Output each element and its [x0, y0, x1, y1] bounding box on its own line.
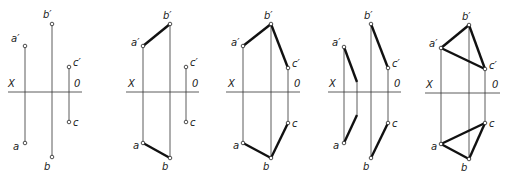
label-b-top: b [162, 161, 168, 172]
axis-label-x: X [127, 78, 136, 89]
panel-4: X 0 a′ b′ c′ a b c [328, 10, 401, 172]
point-c-top [386, 121, 390, 125]
edge-ab-front [441, 25, 469, 48]
edge-ab-front [243, 24, 271, 46]
label-c-front: c′ [489, 60, 497, 71]
point-a-front [23, 44, 27, 48]
point-b-front [168, 22, 172, 26]
label-c-front: c′ [190, 57, 198, 68]
label-c-front: c′ [392, 58, 400, 69]
label-c-top: c [292, 118, 298, 129]
point-b-top [50, 155, 54, 159]
label-c-front: c′ [73, 57, 81, 68]
point-c-front [386, 66, 390, 70]
point-b-top [467, 157, 471, 161]
label-b-top: b [461, 162, 467, 173]
label-c-top: c [190, 117, 196, 128]
point-a-top [439, 142, 443, 146]
label-c-top: c [489, 118, 495, 129]
edge-ab-top [243, 143, 271, 158]
axis-label-0: 0 [192, 78, 198, 89]
point-c-top [286, 121, 290, 125]
point-a-top [241, 141, 245, 145]
label-a-top: a [133, 140, 139, 151]
point-b-top [168, 156, 172, 160]
point-b-front [50, 22, 54, 26]
label-b-front: b′ [163, 10, 172, 21]
point-b-top [369, 156, 373, 160]
label-b-front: b′ [264, 10, 273, 21]
edge-ab-front [143, 24, 170, 46]
edge-bc-top [371, 123, 388, 158]
axis-label-x: X [328, 78, 337, 89]
point-c-top [67, 120, 71, 124]
label-a-front: a′ [429, 38, 438, 49]
label-b-front: b′ [43, 9, 52, 20]
point-a-top [342, 141, 346, 145]
point-b-top [269, 156, 273, 160]
label-a-front: a′ [332, 37, 341, 48]
axis-label-x: X [227, 78, 236, 89]
point-a-top [141, 141, 145, 145]
edge-bc-front [371, 24, 388, 68]
point-a-front [439, 46, 443, 50]
point-b-front [369, 22, 373, 26]
point-c-front [483, 67, 487, 71]
point-a-front [342, 45, 346, 49]
label-a-front: a′ [131, 37, 140, 48]
label-b-top: b [263, 161, 269, 172]
point-b-front [467, 23, 471, 27]
label-a-top: a [431, 141, 437, 152]
label-b-top: b [44, 161, 50, 172]
panel-5: X 0 a′ b′ c′ a b c [425, 11, 500, 173]
edge-ab-top [143, 143, 170, 158]
label-b-front: b′ [364, 10, 373, 21]
edge-ab-top [441, 144, 469, 159]
label-a-front: a′ [231, 37, 240, 48]
axis-label-0: 0 [74, 78, 80, 89]
edge-bc-top [271, 123, 288, 158]
axis-label-x: X [425, 79, 434, 90]
point-a-top [23, 141, 27, 145]
label-c-front: c′ [292, 58, 300, 69]
panel-3: X 0 a′ b′ c′ a b c [226, 10, 300, 172]
edge-bc-front [271, 24, 288, 68]
point-c-top [184, 120, 188, 124]
point-c-front [184, 65, 188, 69]
point-c-front [286, 66, 290, 70]
label-a-front: a′ [11, 33, 20, 44]
label-b-top: b [363, 161, 369, 172]
point-a-front [241, 44, 245, 48]
label-c-top: c [392, 118, 398, 129]
panel-2: X 0 a′ b′ c′ a b c [126, 10, 199, 172]
axis-label-0: 0 [394, 78, 400, 89]
label-b-front: b′ [462, 11, 471, 22]
panel-1: X 0 a′ b′ c′ a b c [7, 9, 82, 172]
axis-label-x: X [7, 78, 16, 89]
axis-label-0: 0 [294, 78, 300, 89]
label-a-top: a [233, 140, 239, 151]
edge-ac-top [441, 123, 485, 144]
axis-label-0: 0 [492, 79, 498, 90]
edge-a-top-partial [344, 115, 357, 143]
point-b-front [269, 22, 273, 26]
projection-diagram: X 0 a′ b′ c′ a b c X 0 a′ b′ c′ a [0, 0, 509, 181]
point-c-top [483, 121, 487, 125]
point-a-front [141, 44, 145, 48]
point-c-front [67, 65, 71, 69]
edge-a-front-partial [344, 47, 357, 82]
label-a-top: a [13, 141, 19, 152]
label-a-top: a [333, 140, 339, 151]
label-c-top: c [73, 117, 79, 128]
